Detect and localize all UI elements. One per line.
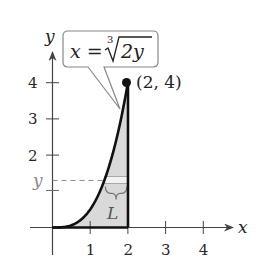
x-tick-label: 1 [86,241,96,259]
callout-root-index: 3 [107,34,113,45]
y-tick-label: 3 [28,110,38,128]
representative-strip [104,176,128,183]
y-tick-label: 4 [28,74,38,92]
length-label: L [106,203,118,223]
x-axis-label: x [238,217,248,237]
point-label: (2, 4) [136,72,182,92]
figure: 1234 234 x = 3 2y (2, 4) x y y L [0,0,274,271]
x-tick-label: 4 [199,241,209,259]
y-ticks: 234 [28,74,59,164]
y-tick-label: 2 [28,147,38,165]
callout-radicand: 2y [120,40,144,62]
callout-equation-lhs: x = [70,40,103,62]
y-axis-label: y [44,26,55,46]
x-tick-label: 2 [123,241,133,259]
point-2-4 [122,78,131,87]
x-tick-label: 3 [161,241,171,259]
y-level-label: y [32,170,43,190]
